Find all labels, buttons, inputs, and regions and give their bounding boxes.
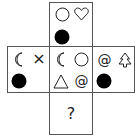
at-sign-icon: @ (74, 74, 89, 88)
filled-circle-icon (96, 73, 112, 89)
question-mark: ? (50, 106, 92, 122)
filled-circle-icon (11, 73, 27, 89)
circle-outline-icon (74, 52, 89, 67)
tree-outline-icon (118, 52, 132, 68)
heart-outline-icon (74, 7, 89, 21)
cube-face-bottom: ? (49, 92, 93, 135)
cube-face-center: @ (49, 46, 93, 93)
x-cross-icon: × (32, 51, 46, 67)
cube-face-left: × (7, 46, 50, 93)
circle-outline-icon (55, 7, 70, 22)
crescent-moon-icon (55, 52, 67, 67)
filled-circle-icon (54, 29, 70, 45)
triangle-outline-icon (53, 74, 69, 89)
cube-face-top (49, 2, 93, 47)
cube-face-right: @ (92, 46, 135, 93)
crescent-moon-icon (13, 52, 25, 67)
at-sign-icon: @ (97, 53, 112, 67)
